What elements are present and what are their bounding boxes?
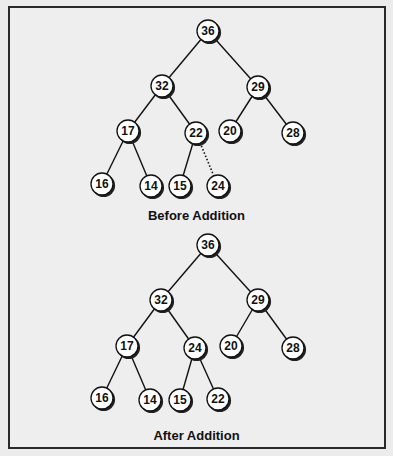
before-node-15: 15: [169, 175, 193, 199]
after-addition-caption: After Addition: [0, 428, 393, 443]
svg-text:14: 14: [143, 393, 157, 407]
svg-text:16: 16: [95, 177, 109, 191]
after-node-29: 29: [247, 289, 271, 313]
svg-text:29: 29: [251, 80, 265, 94]
svg-text:14: 14: [144, 179, 158, 193]
svg-text:15: 15: [173, 179, 187, 193]
svg-text:22: 22: [211, 392, 225, 406]
svg-text:36: 36: [201, 238, 215, 252]
after-node-22: 22: [207, 388, 231, 412]
before-node-22: 22: [185, 122, 209, 146]
svg-text:24: 24: [211, 179, 225, 193]
before-node-16: 16: [91, 173, 115, 197]
after-node-24: 24: [184, 337, 208, 361]
svg-text:28: 28: [286, 126, 300, 140]
after-tree-nodes: 3632291724202816141522: [91, 234, 306, 413]
after-node-15: 15: [169, 389, 193, 413]
svg-text:32: 32: [154, 293, 168, 307]
before-node-20: 20: [219, 120, 243, 144]
before-node-17: 17: [117, 120, 141, 144]
after-node-16: 16: [91, 387, 115, 411]
before-node-29: 29: [247, 76, 271, 100]
after-node-28: 28: [282, 337, 306, 361]
svg-text:20: 20: [224, 339, 238, 353]
svg-text:36: 36: [201, 24, 215, 38]
before-tree-edges: [102, 31, 293, 186]
after-node-17: 17: [116, 335, 140, 359]
svg-text:29: 29: [251, 293, 265, 307]
svg-text:15: 15: [173, 393, 187, 407]
before-node-14: 14: [140, 175, 164, 199]
before-node-24: 24: [207, 175, 231, 199]
after-tree-edges: [102, 245, 293, 400]
svg-text:28: 28: [286, 341, 300, 355]
after-node-14: 14: [139, 389, 163, 413]
svg-text:20: 20: [223, 124, 237, 138]
svg-text:16: 16: [95, 391, 109, 405]
svg-text:24: 24: [188, 341, 202, 355]
svg-text:22: 22: [189, 126, 203, 140]
before-tree-nodes: 3632291722202816141524: [91, 20, 306, 199]
svg-text:32: 32: [155, 79, 169, 93]
before-addition-caption: Before Addition: [0, 208, 393, 223]
svg-text:17: 17: [120, 339, 134, 353]
heap-diagram: 3632291722202816141524 36322917242028161…: [0, 0, 393, 456]
svg-text:17: 17: [121, 124, 135, 138]
after-node-20: 20: [220, 335, 244, 359]
before-node-28: 28: [282, 122, 306, 146]
